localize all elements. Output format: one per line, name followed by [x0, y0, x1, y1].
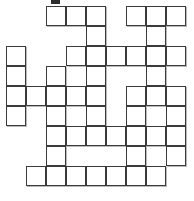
crossword-cell[interactable]	[46, 126, 66, 146]
crossword-cell[interactable]	[126, 46, 146, 66]
crossword-cell[interactable]	[66, 166, 86, 186]
crossword-cell[interactable]	[166, 6, 186, 26]
crossword-cell[interactable]	[166, 106, 186, 126]
crossword-cell[interactable]	[86, 126, 106, 146]
crossword-cell[interactable]	[86, 166, 106, 186]
crossword-cell[interactable]	[166, 86, 186, 106]
crossword-cell[interactable]	[166, 126, 186, 146]
crossword-cell[interactable]	[46, 146, 66, 166]
crossword-cell[interactable]	[86, 106, 106, 126]
crossword-cell[interactable]	[106, 126, 126, 146]
crossword-cell[interactable]	[26, 166, 46, 186]
crossword-cell[interactable]	[6, 86, 26, 106]
crossword-puzzle	[0, 0, 194, 201]
crossword-cell[interactable]	[66, 126, 86, 146]
crossword-cell[interactable]	[66, 86, 86, 106]
crossword-cell[interactable]	[126, 106, 146, 126]
crossword-cell[interactable]	[146, 26, 166, 46]
crossword-cell[interactable]	[26, 86, 46, 106]
crossword-cell[interactable]	[106, 166, 126, 186]
crossword-cell[interactable]	[146, 86, 166, 106]
crossword-cell[interactable]	[166, 46, 186, 66]
crossword-cell[interactable]	[46, 86, 66, 106]
crossword-cell[interactable]	[86, 26, 106, 46]
crossword-cell[interactable]	[126, 126, 146, 146]
crossword-cell[interactable]	[6, 106, 26, 126]
crossword-cell[interactable]	[86, 6, 106, 26]
crossword-cell[interactable]	[106, 46, 126, 66]
crossword-cell[interactable]	[86, 46, 106, 66]
crossword-cell[interactable]	[86, 66, 106, 86]
crossword-cell[interactable]	[166, 146, 186, 166]
crossword-cell[interactable]	[46, 166, 66, 186]
crossword-cell[interactable]	[46, 6, 66, 26]
crossword-cell[interactable]	[126, 146, 146, 166]
crossword-cell[interactable]	[66, 46, 86, 66]
crossword-cell[interactable]	[46, 106, 66, 126]
crossword-cell[interactable]	[126, 86, 146, 106]
crossword-cell[interactable]	[146, 6, 166, 26]
crossword-cell[interactable]	[126, 166, 146, 186]
crossword-cell[interactable]	[46, 66, 66, 86]
crossword-cell[interactable]	[6, 66, 26, 86]
crossword-cell[interactable]	[146, 66, 166, 86]
crossword-cell[interactable]	[126, 6, 146, 26]
crossword-grid[interactable]	[0, 0, 194, 201]
crossword-cell[interactable]	[146, 166, 166, 186]
crossword-cell[interactable]	[86, 86, 106, 106]
crossword-cell[interactable]	[66, 6, 86, 26]
crossword-cell[interactable]	[6, 46, 26, 66]
crossword-cell[interactable]	[146, 126, 166, 146]
crossword-cell[interactable]	[146, 46, 166, 66]
